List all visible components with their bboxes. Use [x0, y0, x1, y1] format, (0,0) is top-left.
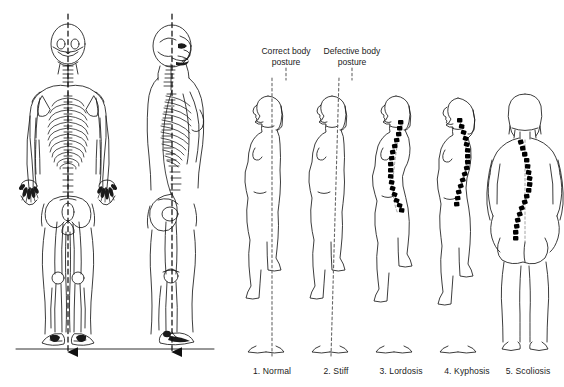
posture-figure-scoliosis: [487, 94, 563, 351]
posture-figure-stiff: [309, 96, 348, 353]
header-defective-posture: Defective body posture: [302, 46, 402, 67]
spine-markers-kyphosis: [454, 118, 471, 207]
header-tick-marks: [286, 68, 352, 80]
posture-figure-lordosis: [372, 96, 412, 353]
spine-markers-lordosis: [388, 120, 405, 213]
spine-markers-scoliosis: [513, 139, 533, 240]
skeleton-side-view: [147, 25, 203, 345]
posture-figure-normal: [245, 96, 284, 353]
plumb-line-stiff: [331, 78, 339, 356]
label-posture-scoliosis: 5. Scoliosis: [489, 366, 564, 377]
foot-bones-side: [163, 331, 190, 342]
posture-figure-kyphosis: [437, 98, 476, 353]
posture-diagram: Correct body posture Defective body post…: [0, 0, 564, 387]
